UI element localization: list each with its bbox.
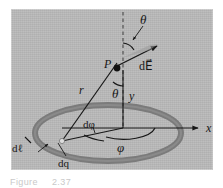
figure-root: θ dE⃗ P r θ y dφ φ x dℓ dq Figure2.37: [0, 0, 223, 188]
label-axis-x: x: [206, 122, 211, 134]
charge-element-dq: [59, 138, 64, 143]
figure-caption: Figure2.37: [10, 177, 71, 187]
label-dE-field: dE⃗: [139, 60, 153, 72]
label-radius-r: r: [79, 84, 84, 96]
label-phi: φ: [117, 141, 124, 154]
caption-prefix: Figure: [10, 177, 38, 187]
label-axis-y: y: [129, 90, 134, 102]
label-d-q: dq: [58, 158, 69, 169]
label-d-phi: dφ: [83, 119, 95, 130]
label-theta-mid: θ: [112, 87, 118, 100]
label-point-p: P: [104, 58, 111, 70]
caption-number: 2.37: [52, 177, 71, 187]
label-d-ell: dℓ: [12, 143, 23, 154]
point-p-marker: [114, 65, 121, 72]
charged-ring: [35, 105, 181, 161]
theta-top-arc: [123, 26, 143, 50]
label-theta-top: θ: [140, 13, 146, 26]
